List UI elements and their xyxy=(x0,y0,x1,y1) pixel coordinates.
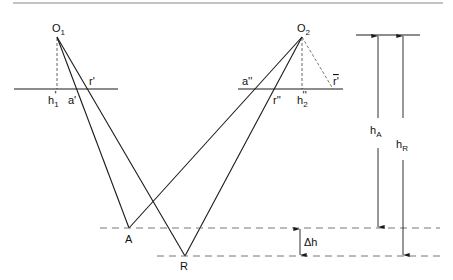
height-dimensions: hA hR Δh xyxy=(300,35,420,255)
o1-label: O1 xyxy=(52,22,66,37)
r2-label: r'' xyxy=(273,94,281,106)
camera-o2: O2 a'' r'' h2'' r' xyxy=(129,22,343,256)
dh-label: Δh xyxy=(304,236,317,248)
a2-label: a'' xyxy=(242,75,252,87)
r1-label: r' xyxy=(89,75,95,87)
h1-label: h1' xyxy=(48,89,59,109)
ray-o1-to-r xyxy=(57,37,185,256)
stereo-parallax-diagram: O1 h1' a' r' O2 a'' r'' h2'' r' A R hA xyxy=(0,0,453,280)
o2-rbar-dashed xyxy=(302,37,333,89)
ground-points: A R xyxy=(100,228,440,272)
h2-label: h2'' xyxy=(297,89,308,109)
camera-o1: O1 h1' a' r' xyxy=(14,22,185,256)
point-a-label: A xyxy=(125,233,133,245)
hr-label: hR xyxy=(396,138,408,153)
a1-label: a' xyxy=(68,94,76,106)
ray-o1-to-a xyxy=(57,37,129,228)
rbar-label: r' xyxy=(333,75,339,87)
point-r-label: R xyxy=(180,260,188,272)
o2-label: O2 xyxy=(297,22,311,37)
ha-label: hA xyxy=(370,124,382,139)
